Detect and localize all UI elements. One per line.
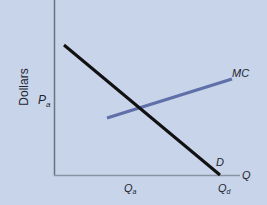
- economics-diagram: Dollars Pa MC D Q Qa Qd: [0, 0, 267, 205]
- quantity-d-label: Qd: [218, 182, 232, 195]
- x-axis-label: Q: [242, 169, 251, 181]
- mc-curve: [107, 79, 232, 118]
- diagram-canvas: Dollars Pa MC D Q Qa Qd: [0, 0, 267, 205]
- demand-curve: [64, 45, 220, 175]
- mc-label: MC: [232, 67, 249, 79]
- demand-label: D: [216, 156, 224, 168]
- y-axis-label: Dollars: [17, 68, 31, 105]
- price-a-label: Pa: [38, 93, 51, 109]
- quantity-a-label: Qa: [124, 182, 137, 195]
